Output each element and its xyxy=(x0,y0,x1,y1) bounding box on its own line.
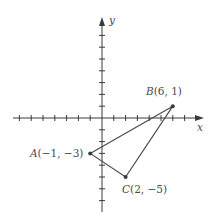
y-axis-label: y xyxy=(108,14,116,26)
point-b-label: B(6, 1) xyxy=(145,85,182,97)
y-axis-arrow-icon xyxy=(99,17,105,26)
point-a-dot xyxy=(88,151,92,155)
coordinate-plane-figure: x y B(6, 1) A(−1, −3) C(2, −5) xyxy=(0,0,212,218)
point-a-label: A(−1, −3) xyxy=(29,147,83,159)
point-b-name: B xyxy=(145,85,154,97)
point-b-dot xyxy=(171,104,175,108)
point-c-name: C xyxy=(122,183,130,195)
axes xyxy=(13,17,204,212)
point-c-dot xyxy=(124,175,128,179)
point-c-label: C(2, −5) xyxy=(122,183,167,195)
point-c-coords: (2, −5) xyxy=(130,183,167,195)
point-a-coords: (−1, −3) xyxy=(38,147,84,159)
point-b-coords: (6, 1) xyxy=(154,85,182,97)
x-axis-label: x xyxy=(197,121,203,133)
